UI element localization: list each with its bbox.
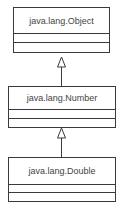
inheritance-arrows [0, 0, 123, 214]
generalization-arrow-double-to-number [58, 128, 66, 157]
generalization-arrow-number-to-object [58, 57, 66, 86]
hollow-triangle-icon [58, 57, 66, 67]
hollow-triangle-icon [58, 128, 66, 138]
